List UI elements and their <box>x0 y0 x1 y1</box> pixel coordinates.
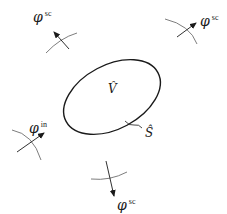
surface-label: Ŝ <box>145 124 153 140</box>
scattered-wave-top-left: φsc <box>33 9 77 53</box>
scatterer-boundary <box>51 44 173 149</box>
volume-label: V̂ <box>108 81 118 96</box>
propagation-arrow <box>177 23 196 37</box>
scattered-wave-top-right: φsc <box>165 13 219 44</box>
wave-label: φsc <box>117 197 136 213</box>
wave-label: φsc <box>33 9 52 25</box>
wavefront-arc <box>46 33 77 53</box>
scattering-diagram: V̂ Ŝ φsc φsc φin φsc <box>0 0 227 214</box>
wave-label: φin <box>29 120 47 136</box>
wavefront-arc <box>165 19 197 44</box>
wave-label: φsc <box>200 13 219 29</box>
scatterer-body: V̂ <box>51 44 173 149</box>
incident-wave-left: φin <box>12 120 47 160</box>
propagation-arrow <box>54 32 69 49</box>
scattered-wave-bottom: φsc <box>91 161 136 213</box>
